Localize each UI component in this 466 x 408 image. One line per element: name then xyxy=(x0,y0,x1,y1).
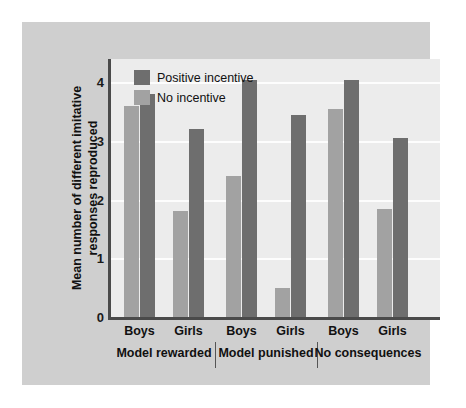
figure-panel: 01234 Mean number of different imitative… xyxy=(22,22,430,385)
bar xyxy=(173,211,188,317)
x-axis-labels: BoysGirlsModel rewardedBoysGirlsModel pu… xyxy=(110,322,440,384)
legend-swatch-positive-incentive xyxy=(134,70,150,85)
bar xyxy=(226,176,241,317)
bar xyxy=(393,138,408,317)
y-axis-tick-label: 0 xyxy=(84,310,104,325)
legend-item: No incentive xyxy=(134,90,254,105)
y-axis-title: Mean number of different imitative respo… xyxy=(69,78,101,298)
legend-label-no-incentive: No incentive xyxy=(157,91,226,105)
x-axis-group-label: No consequences xyxy=(310,346,426,360)
bar xyxy=(344,80,359,317)
legend: Positive incentive No incentive xyxy=(134,70,254,110)
legend-swatch-no-incentive xyxy=(134,90,150,105)
x-axis-group-label: Model rewarded xyxy=(106,346,222,360)
chart-figure: 01234 Mean number of different imitative… xyxy=(0,0,466,408)
x-axis-line xyxy=(108,317,440,320)
bar xyxy=(189,129,204,317)
bar xyxy=(291,115,306,317)
bar xyxy=(242,80,257,317)
bar xyxy=(328,109,343,317)
bar xyxy=(377,209,392,317)
legend-label-positive-incentive: Positive incentive xyxy=(157,71,254,85)
bar xyxy=(275,288,290,317)
bar xyxy=(140,94,155,317)
legend-item: Positive incentive xyxy=(134,70,254,85)
bar xyxy=(124,106,139,317)
x-axis-subgroup-label: Girls xyxy=(357,324,428,338)
x-axis-group-label: Model punished xyxy=(208,346,324,360)
